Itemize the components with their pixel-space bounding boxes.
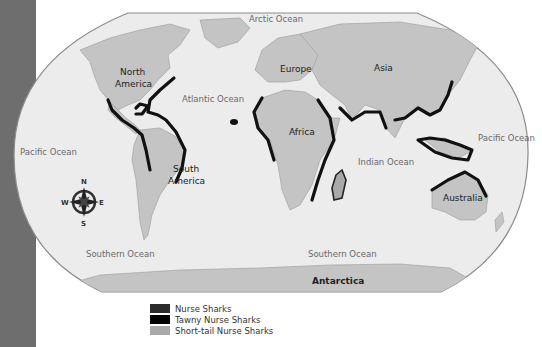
- south-america-label-line1: South: [173, 164, 199, 174]
- south-america-label-line2: America: [168, 176, 205, 186]
- pacific-ocean-east-label: Pacific Ocean: [478, 133, 535, 143]
- legend-item-tawny-nurse-sharks: Tawny Nurse Sharks: [150, 314, 273, 325]
- atlantic-ocean-label: Atlantic Ocean: [182, 94, 244, 104]
- legend-label: Short-tail Nurse Sharks: [175, 326, 273, 336]
- compass-w: W: [61, 199, 69, 207]
- legend-swatch-tawny-nurse-sharks: [150, 315, 170, 324]
- asia-label: Asia: [374, 63, 393, 73]
- north-america-label-line1: North: [120, 67, 145, 77]
- legend-item-nurse-sharks: Nurse Sharks: [150, 303, 273, 314]
- atlantic-island-range: [230, 119, 238, 125]
- southern-ocean-east-label: Southern Ocean: [308, 249, 377, 259]
- world-map: Arctic Ocean Atlantic Ocean Pacific Ocea…: [0, 0, 542, 347]
- north-america-label-line2: America: [115, 79, 152, 89]
- indian-ocean-label: Indian Ocean: [358, 157, 414, 167]
- australia-label: Australia: [443, 193, 483, 203]
- compass-n: N: [81, 178, 87, 186]
- legend-label: Tawny Nurse Sharks: [175, 315, 261, 325]
- legend-swatch-nurse-sharks: [150, 304, 170, 313]
- europe-label: Europe: [280, 64, 312, 74]
- pacific-ocean-west-label: Pacific Ocean: [20, 147, 77, 157]
- arctic-ocean-label: Arctic Ocean: [249, 14, 303, 24]
- legend-item-short-tail-nurse-sharks: Short-tail Nurse Sharks: [150, 325, 273, 336]
- africa-label: Africa: [289, 127, 315, 137]
- legend-label: Nurse Sharks: [175, 304, 231, 314]
- compass-e: E: [99, 199, 104, 207]
- legend-swatch-short-tail-nurse-sharks: [150, 326, 170, 335]
- southern-ocean-west-label: Southern Ocean: [86, 249, 155, 259]
- antarctica-label: Antarctica: [312, 276, 364, 286]
- compass-s: S: [81, 220, 86, 228]
- legend: Nurse Sharks Tawny Nurse Sharks Short-ta…: [150, 303, 273, 336]
